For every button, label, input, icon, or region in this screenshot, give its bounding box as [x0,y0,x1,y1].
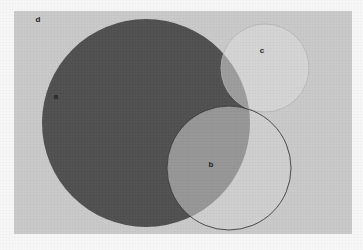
set-c-label: c [260,46,265,55]
universal-set-label: d [36,15,41,24]
set-a-label: a [54,92,59,101]
venn-diagram-canvas: d a b c [0,0,363,250]
set-b-label: b [209,160,214,169]
venn-diagram-svg: d a b c [0,0,363,250]
set-c-circle[interactable] [221,24,309,112]
set-b-circle[interactable] [167,106,291,230]
